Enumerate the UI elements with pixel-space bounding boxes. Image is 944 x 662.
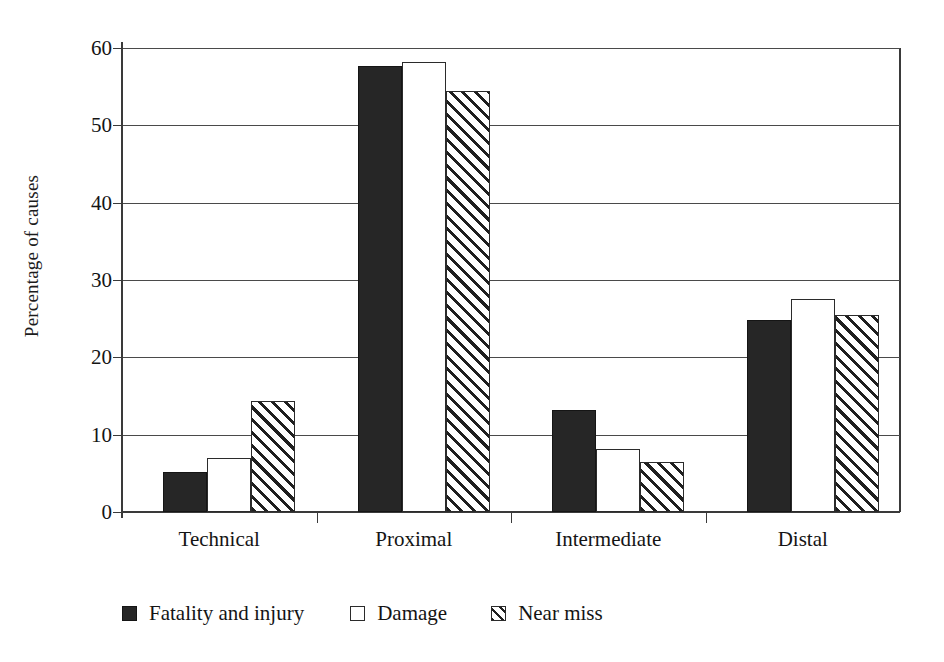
bar-chart-figure: Percentage of causes 0102030405060 Techn… <box>0 0 944 662</box>
x-axis-label-technical: Technical <box>122 528 317 551</box>
y-axis-tick-label: 60 <box>68 38 112 59</box>
bar-proximal-fatality-and-injury <box>358 66 402 512</box>
y-axis-tick-labels: 0102030405060 <box>60 0 112 662</box>
bar-technical-near-miss <box>251 401 295 512</box>
gridline <box>122 203 900 204</box>
x-axis-tick-mark <box>511 512 512 523</box>
bar-intermediate-fatality-and-injury <box>552 410 596 512</box>
bar-distal-near-miss <box>835 315 879 512</box>
legend-item-damage: Damage <box>350 601 447 626</box>
bar-technical-fatality-and-injury <box>163 472 207 512</box>
bar-proximal-damage <box>402 62 446 512</box>
y-axis-tick-label: 50 <box>68 115 112 136</box>
y-axis-tick-mark <box>113 48 123 49</box>
legend-label: Damage <box>377 601 447 626</box>
y-axis-tick-label: 40 <box>68 192 112 213</box>
gridline <box>122 125 900 126</box>
x-axis-tick-mark <box>706 512 707 523</box>
chart-legend: Fatality and injuryDamageNear miss <box>122 596 722 630</box>
legend-item-near-miss: Near miss <box>491 601 603 626</box>
hatched-square-icon <box>491 606 506 621</box>
bar-technical-damage <box>207 458 251 512</box>
plot-area <box>122 48 900 512</box>
x-axis-tick-mark <box>317 512 318 523</box>
legend-label: Fatality and injury <box>149 601 304 626</box>
x-axis-category-labels: TechnicalProximalIntermediateDistal <box>122 528 900 562</box>
y-axis-tick-mark <box>113 280 123 281</box>
legend-item-fatality-and-injury: Fatality and injury <box>122 601 304 626</box>
y-axis-tick-mark <box>113 125 123 126</box>
y-axis-tick-label: 20 <box>68 347 112 368</box>
bar-distal-damage <box>791 299 835 512</box>
x-axis-label-proximal: Proximal <box>317 528 512 551</box>
legend-label: Near miss <box>518 601 603 626</box>
y-axis-tick-label: 30 <box>68 270 112 291</box>
y-axis-title-text: Percentage of causes <box>21 175 43 337</box>
y-axis-tick-mark <box>113 512 123 513</box>
bar-intermediate-near-miss <box>640 462 684 512</box>
gridline <box>122 48 900 49</box>
bar-distal-fatality-and-injury <box>747 320 791 512</box>
y-axis-tick-label: 0 <box>68 502 112 523</box>
bar-proximal-near-miss <box>446 91 490 512</box>
open-white-square-icon <box>350 606 365 621</box>
y-axis-tick-mark <box>113 435 123 436</box>
y-axis-tick-mark <box>113 357 123 358</box>
bar-intermediate-damage <box>596 449 640 512</box>
y-axis-tick-label: 10 <box>68 424 112 445</box>
x-axis-label-intermediate: Intermediate <box>511 528 706 551</box>
solid-black-square-icon <box>122 606 137 621</box>
x-axis-label-distal: Distal <box>706 528 901 551</box>
y-axis-tick-mark <box>113 203 123 204</box>
y-axis-title: Percentage of causes <box>0 0 64 512</box>
gridline <box>122 280 900 281</box>
